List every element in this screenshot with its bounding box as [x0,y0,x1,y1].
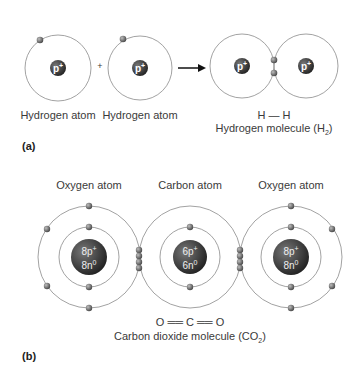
co2-formula: O ══ C ══ O [156,316,224,328]
h1-proton: p+ [53,62,63,74]
oxygen-left-nucleus: 8p+ 8n0 [81,243,96,272]
hydrogen-molecule-label: Hydrogen molecule (H2) [215,122,332,136]
hydrogen-atom-label-1: Hydrogen atom [20,109,95,121]
h2-formula: H — H [258,109,291,121]
carbon-atom-label: Carbon atom [158,179,222,191]
oxygen-atom-label-right: Oxygen atom [258,179,323,191]
plus-sign: + [97,61,102,71]
carbon-nucleus: 6p+ 6n0 [182,243,197,272]
panel-b-label: (b) [22,350,36,362]
panel-a-label: (a) [22,140,35,152]
hydrogen-atom-label-2: Hydrogen atom [102,109,177,121]
carbon-dioxide-label: Carbon dioxide molecule (CO2) [114,330,266,344]
h2mol-left-proton: p+ [237,60,247,72]
oxygen-right-nucleus: 8p+ 8n0 [283,243,298,272]
oxygen-atom-label-left: Oxygen atom [56,179,121,191]
h2-proton: p+ [135,62,145,74]
h2mol-right-proton: p+ [301,60,311,72]
